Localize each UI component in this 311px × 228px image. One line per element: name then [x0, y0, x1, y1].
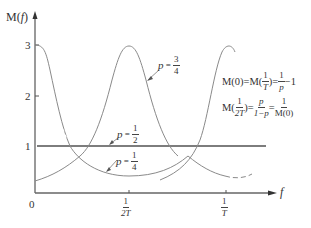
formula2-frac-3: 1 M(0)	[275, 97, 294, 118]
label-p12-fraction: 1 2	[132, 124, 139, 145]
origin-label: 0	[29, 199, 35, 210]
label-p14-eq: =	[122, 157, 132, 166]
y-axis-label: M(f)	[6, 11, 28, 23]
series-p-threequarter	[35, 46, 178, 181]
y-axis-label-close: )	[24, 10, 28, 24]
x-tick-full-den: T	[222, 208, 227, 218]
formula1-den1: T	[263, 82, 268, 92]
label-p12-eq: =	[123, 130, 133, 139]
formula2-num3: 1	[281, 97, 288, 108]
label-p14-num: 1	[131, 151, 138, 162]
x-axis-label: f	[280, 186, 283, 198]
label-p34-fraction: 3 4	[173, 55, 180, 76]
x-tick-full-num: 1	[221, 197, 228, 208]
label-p12-num: 1	[132, 124, 139, 135]
pointer-p12-arrow-icon	[109, 140, 114, 145]
formula1-den2: p	[279, 82, 284, 92]
x-tick-half-num: 1	[123, 197, 130, 208]
formula2-num2: p	[258, 97, 265, 108]
formula1-part-c: −1	[285, 76, 296, 87]
x-tick-half-fraction: 1 2T	[121, 197, 131, 218]
formula2-part-a: M(	[222, 102, 235, 113]
series-p-quarter-dashed-end	[225, 174, 252, 178]
y-tick-label-2: 2	[25, 91, 31, 102]
x-tick-label-full: 1 T	[221, 197, 228, 218]
formula2-den3: M(0)	[275, 108, 294, 118]
annotation-formula-1: M(0)=M( 1 T )= 1 p −1	[222, 71, 296, 92]
label-p-quarter: p = 1 4	[116, 151, 138, 172]
formula2-frac-1: 1 2T	[235, 97, 245, 118]
formula2-part-b: )=	[244, 102, 253, 113]
annotation-formula-2: M( 1 2T )= p 1−p = 1 M(0)	[222, 97, 293, 118]
x-tick-full-fraction: 1 T	[221, 197, 228, 218]
x-tick-label-half: 1 2T	[121, 197, 131, 218]
formula2-den2: 1−p	[254, 108, 269, 118]
series-p-quarter-tail	[188, 156, 225, 176]
y-tick-label-3: 3	[25, 40, 31, 51]
y-tick-label-1: 1	[25, 141, 31, 152]
formula1-part-a: M(0)=M(	[222, 76, 262, 87]
formula1-part-b: )=	[269, 76, 278, 87]
label-p14-den: 4	[132, 162, 137, 172]
label-p12-den: 2	[133, 135, 138, 145]
label-p34-num: 3	[173, 55, 180, 66]
label-p-three-quarter: p = 3 4	[158, 55, 180, 76]
y-axis-arrow-icon	[33, 11, 38, 19]
y-axis-label-func: M(	[6, 10, 21, 24]
label-p34-den: 4	[174, 66, 179, 76]
x-axis-arrow-icon	[268, 191, 277, 196]
label-p-half: p = 1 2	[117, 124, 139, 145]
formula2-den1: 2T	[235, 108, 245, 118]
formula2-frac-2: p 1−p	[254, 97, 269, 118]
label-p14-fraction: 1 4	[131, 151, 138, 172]
x-tick-half-den: 2T	[121, 208, 131, 218]
label-p34-eq: =	[164, 61, 174, 70]
formula2-num1: 1	[236, 97, 243, 108]
series-dashed-segment	[58, 118, 67, 140]
